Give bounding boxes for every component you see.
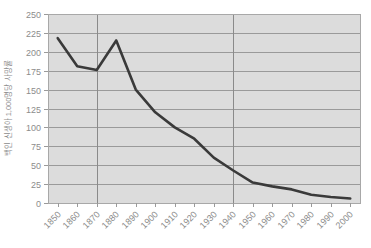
y-tick-label: 175	[26, 67, 41, 77]
y-tick-label: 125	[26, 105, 41, 115]
y-tick-label: 100	[26, 123, 41, 133]
line-chart: 0255075100125150175200225250 18501860187…	[0, 0, 371, 248]
y-tick-label: 225	[26, 29, 41, 39]
chart-container: 0255075100125150175200225250 18501860187…	[0, 0, 371, 248]
plot-area-background	[48, 14, 360, 203]
y-tick-label: 25	[31, 180, 41, 190]
y-tick-label: 75	[31, 142, 41, 152]
y-tick-label: 150	[26, 86, 41, 96]
y-axis-title-label: 백인 신생아 1,000명당 사망률	[3, 60, 13, 155]
y-axis-title: 백인 신생아 1,000명당 사망률	[3, 60, 13, 155]
y-tick-label: 250	[26, 10, 41, 20]
y-tick-label: 50	[31, 161, 41, 171]
y-tick-label: 0	[36, 199, 41, 209]
y-tick-label: 200	[26, 48, 41, 58]
